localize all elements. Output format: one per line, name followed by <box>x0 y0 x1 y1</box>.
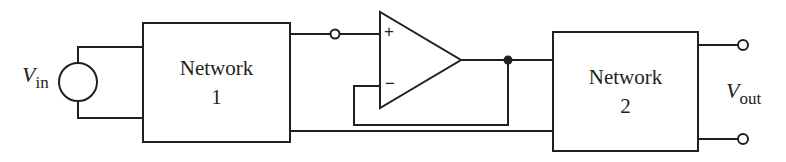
junction-node-icon <box>504 56 513 65</box>
voltage-source-icon <box>59 63 97 101</box>
output-bottom-terminal-icon <box>738 134 748 144</box>
circuit-diagram: Vin Network 1 + − Network 2 Vout <box>0 0 786 162</box>
output-top-terminal-icon <box>738 40 748 50</box>
network2-label-line2: 2 <box>553 92 698 121</box>
vin-label-main: V <box>22 62 35 87</box>
input-terminal-icon <box>331 30 340 39</box>
network1-label-line2: 1 <box>143 83 290 112</box>
opamp-plus-sign: + <box>384 22 394 42</box>
opamp-minus-sign: − <box>385 74 395 94</box>
source-top-wire <box>78 47 143 63</box>
vout-label: Vout <box>726 78 761 104</box>
network2-label: Network 2 <box>553 63 698 121</box>
feedback-wire <box>354 60 508 125</box>
network2-label-line1: Network <box>553 63 698 92</box>
source-bottom-wire <box>78 101 143 118</box>
vout-label-sub: out <box>739 89 761 108</box>
network1-label: Network 1 <box>143 54 290 112</box>
vout-label-main: V <box>726 78 739 103</box>
network1-label-line1: Network <box>143 54 290 83</box>
vin-label: Vin <box>22 62 49 88</box>
vin-label-sub: in <box>35 73 48 92</box>
